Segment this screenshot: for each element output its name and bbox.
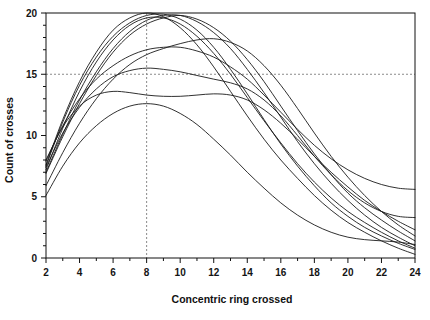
- x-tick-label-8: 8: [144, 267, 150, 278]
- x-tick-label-6: 6: [110, 267, 116, 278]
- series-curve-cell-9: [46, 104, 415, 245]
- x-tick-label-18: 18: [309, 267, 321, 278]
- x-tick-label-16: 16: [275, 267, 287, 278]
- series-curve-cell-3: [46, 15, 415, 240]
- y-tick-label-5: 5: [31, 191, 37, 202]
- y-tick-label-20: 20: [26, 8, 38, 19]
- series-curves-group: [46, 13, 415, 254]
- x-tick-label-20: 20: [342, 267, 354, 278]
- x-tick-label-10: 10: [175, 267, 187, 278]
- y-tick-label-15: 15: [26, 69, 38, 80]
- x-tick-label-22: 22: [376, 267, 388, 278]
- series-curve-cell-6: [46, 91, 415, 230]
- x-tick-label-4: 4: [77, 267, 83, 278]
- line-chart-plot: 2468101214161820222405101520 Concentric …: [0, 0, 430, 320]
- series-curve-cell-8: [46, 14, 415, 249]
- series-curve-cell-2: [46, 17, 415, 248]
- y-axis-title: Count of crosses: [3, 97, 15, 183]
- chart-container: 2468101214161820222405101520 Concentric …: [0, 0, 430, 320]
- x-tick-label-14: 14: [242, 267, 254, 278]
- x-tick-label-2: 2: [43, 267, 49, 278]
- axis-tick-labels-group: 2468101214161820222405101520: [26, 8, 421, 279]
- y-tick-label-10: 10: [26, 130, 38, 141]
- series-curve-cell-5: [46, 68, 415, 217]
- x-tick-label-12: 12: [208, 267, 220, 278]
- x-axis-title: Concentric ring crossed: [172, 293, 293, 305]
- x-tick-label-24: 24: [409, 267, 421, 278]
- y-tick-label-0: 0: [31, 253, 37, 264]
